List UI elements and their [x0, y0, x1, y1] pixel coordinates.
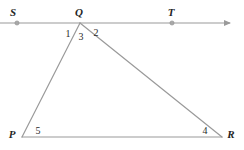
angle-label-2: 2	[94, 28, 99, 38]
angle-label-3: 3	[79, 32, 84, 42]
segments-group	[0, 23, 230, 137]
point-marker-t	[170, 21, 174, 25]
point-marker-s	[15, 21, 19, 25]
segment-q-r	[80, 23, 222, 137]
point-label-r: R	[227, 129, 234, 140]
angle-label-5: 5	[36, 126, 41, 136]
angle-label-4: 4	[203, 126, 208, 136]
point-label-q: Q	[75, 7, 83, 18]
geometry-diagram: S Q T P R 1 3 2 5 4	[0, 0, 244, 150]
point-label-p: P	[9, 129, 16, 140]
point-label-s: S	[10, 7, 16, 18]
segment-p-q	[22, 23, 80, 137]
angle-label-1: 1	[66, 29, 71, 39]
point-label-t: T	[168, 7, 175, 18]
